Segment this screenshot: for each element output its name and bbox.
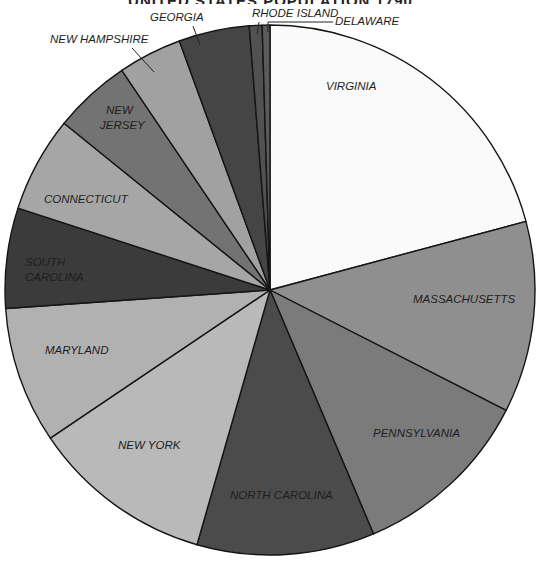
slice-label: GEORGIA [150,11,204,23]
slice-label: NORTH CAROLINA [230,489,333,501]
slice-label: VIRGINIA [326,80,377,92]
slice-label: DELAWARE [335,15,399,27]
slice-label: MASSACHUSETTS [413,293,516,305]
slice-label: RHODE ISLAND [252,7,338,19]
slice-label: CONNECTICUT [44,193,129,205]
slice-label: MARYLAND [45,344,108,356]
slice-label: NEW HAMPSHIRE [50,33,149,45]
pie-slices [5,25,535,555]
slice-label: NEW YORK [118,439,182,451]
pie-chart: VIRGINIAMASSACHUSETTSPENNSYLVANIANORTH C… [0,0,541,563]
slice-label: PENNSYLVANIA [373,427,460,439]
